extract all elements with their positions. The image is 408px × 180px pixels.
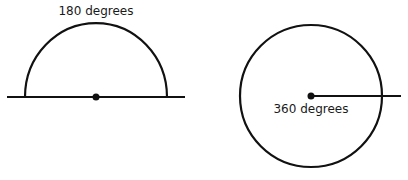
circle-center-dot (308, 93, 315, 100)
semicircle-center-dot (93, 94, 100, 101)
semicircle-arc (25, 23, 167, 97)
semicircle-label: 180 degrees (58, 4, 133, 18)
angle-diagram: 180 degrees 360 degrees (0, 0, 408, 180)
circle-label: 360 degrees (273, 102, 348, 116)
circle-figure: 360 degrees (240, 25, 401, 167)
semicircle-figure: 180 degrees (7, 4, 185, 101)
